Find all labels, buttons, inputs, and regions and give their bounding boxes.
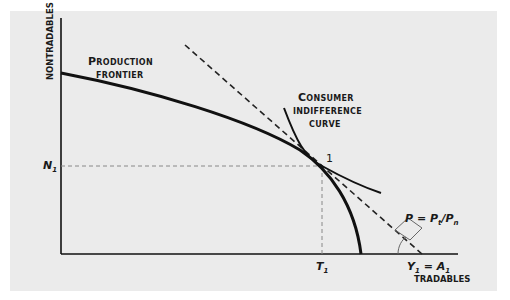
tangency-point-label: 1 — [326, 152, 333, 165]
a1-main: A — [437, 260, 446, 273]
indifference-label-line2: indifference — [293, 104, 362, 117]
price-pt: P — [430, 212, 438, 225]
t1-sub: 1 — [324, 267, 329, 275]
diagram-canvas — [0, 0, 510, 300]
x-axis-label: TRADABLES — [414, 274, 470, 284]
n1-label: N1 — [43, 159, 57, 174]
production-frontier-label-line2: frontier — [96, 68, 144, 81]
y1-sub: 1 — [415, 267, 420, 275]
production-frontier-label-line1: Production — [88, 55, 153, 68]
price-ratio-label: P = Pt/Pn — [405, 212, 458, 227]
y1-main: Y — [407, 260, 415, 273]
t1-main: T — [316, 260, 324, 273]
n1-main: N — [43, 159, 52, 172]
a1-sub: 1 — [445, 267, 450, 275]
y1-eq: = — [424, 260, 433, 273]
t1-label: T1 — [316, 260, 328, 275]
indifference-label-line1: Consumer — [298, 91, 354, 104]
price-n-sub: n — [453, 219, 458, 227]
indifference-label-line3: curve — [309, 117, 341, 130]
y1-a1-label: Y1 = A1 — [407, 260, 450, 275]
y-axis-label: NONTRADABLES — [45, 2, 55, 80]
price-p: P — [405, 212, 413, 225]
n1-sub: 1 — [52, 166, 57, 174]
price-eq: = — [417, 212, 426, 225]
